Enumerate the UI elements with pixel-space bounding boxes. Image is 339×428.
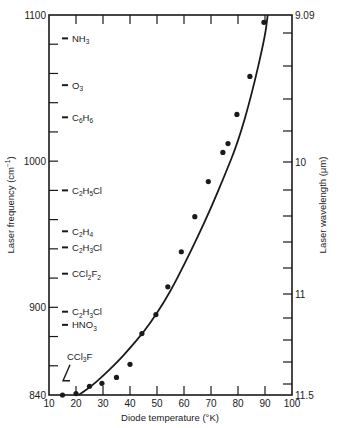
annotation-label: C2H3Cl [72, 306, 102, 319]
data-point [73, 391, 78, 396]
y2-tick-label: 11.5 [295, 390, 314, 401]
plot-frame [49, 15, 292, 395]
data-point [114, 375, 119, 380]
x-tick-label: 50 [151, 398, 163, 409]
annotation-label: C6H6 [72, 112, 93, 125]
y-axis-right: 9.09101111.5 [283, 10, 315, 401]
plot-border [49, 15, 292, 395]
x-tick-label: 30 [97, 398, 109, 409]
y-tick-label: 1100 [24, 10, 46, 21]
y-tick-label: 1000 [24, 156, 47, 167]
annotation-label: C2H4 [72, 226, 93, 239]
y-axis-title: Laser frequency (cm−1) [4, 156, 16, 253]
y2-axis-title: Laser wavelength (μm) [317, 157, 328, 254]
annotation-label: C2H5Cl [72, 185, 102, 198]
y2-tick-label: 11 [295, 289, 306, 300]
data-point [127, 362, 132, 367]
data-point [179, 249, 184, 254]
y2-tick-label: 9.09 [295, 10, 315, 21]
y2-tick-label: 10 [295, 157, 307, 168]
x-tick-label: 80 [232, 398, 244, 409]
data-point [225, 141, 230, 146]
x-tick-label: 90 [259, 398, 271, 409]
data-series [60, 15, 268, 398]
data-point [60, 392, 65, 397]
data-point [206, 179, 211, 184]
y-axis-left: 84090010001100 [24, 10, 58, 401]
x-axis-title: Diode temperature (°K) [121, 412, 219, 423]
x-tick-label: 40 [124, 398, 136, 409]
annotation-label: CCl3F [67, 351, 92, 364]
chart: 102030405060708090100 84090010001100 9.0… [0, 0, 339, 428]
data-point [192, 214, 197, 219]
data-point [99, 381, 104, 386]
data-point [165, 284, 170, 289]
annotation-label: HNO3 [72, 319, 97, 332]
annotation-label: O3 [72, 80, 83, 93]
data-point [234, 112, 239, 117]
x-tick-label: 60 [178, 398, 190, 409]
data-point [247, 74, 252, 79]
fit-curve [79, 15, 268, 395]
annotation-label: CCl2F2 [72, 268, 101, 281]
annotation-label: NH3 [72, 33, 90, 46]
y-tick-label: 900 [29, 302, 46, 313]
y-tick-label: 840 [29, 390, 46, 401]
x-tick-label: 70 [205, 398, 217, 409]
annotation-label: C2H3Cl [72, 242, 102, 255]
molecule-annotations: NH3O3C6H6C2H5ClC2H4C2H3ClCCl2F2C2H3ClHNO… [62, 33, 102, 381]
x-tick-label: 20 [70, 398, 82, 409]
data-point [220, 150, 225, 155]
arrow-icon [63, 365, 70, 381]
